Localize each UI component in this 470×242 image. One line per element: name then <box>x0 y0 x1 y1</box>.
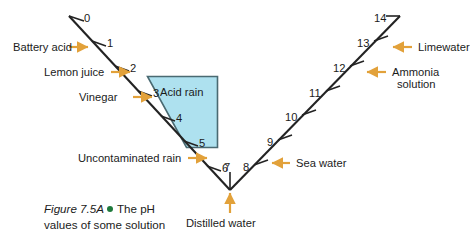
caption-line-2: values of some solution <box>44 218 165 231</box>
label-uncontaminated-rain: Uncontaminated rain <box>78 152 181 165</box>
figure-caption: Figure 7.5AThe pH values of some solutio… <box>44 201 249 234</box>
tick-10 <box>302 110 316 115</box>
label-vinegar: Vinegar <box>79 91 117 104</box>
tick-label-4: 4 <box>176 112 182 125</box>
label-ammonia: Ammonia <box>392 66 439 79</box>
caption-line-1: The pH <box>117 202 155 215</box>
tick-label-14: 14 <box>374 12 386 25</box>
tick-label-3: 3 <box>153 87 159 100</box>
tick-label-7: 7 <box>224 161 230 174</box>
tick-label-11: 11 <box>309 87 321 100</box>
label-acid-rain: Acid rain <box>160 86 204 99</box>
tick-label-10: 10 <box>285 111 297 124</box>
tick-label-8: 8 <box>243 161 249 174</box>
label-limewater: Limewater <box>418 41 470 54</box>
tick-label-0: 0 <box>84 12 90 25</box>
tick-label-9: 9 <box>267 136 273 149</box>
tick-12 <box>350 61 364 66</box>
tick-label-1: 1 <box>107 37 113 50</box>
label-lemon-juice: Lemon juice <box>44 66 104 79</box>
tick-label-13: 13 <box>357 37 369 50</box>
label-ammonia-solution-line2: solution <box>397 78 436 91</box>
figure-number: Figure 7.5A <box>44 202 104 215</box>
tick-label-12: 12 <box>333 62 345 75</box>
tick-label-5: 5 <box>199 137 205 150</box>
label-sea-water: Sea water <box>296 157 346 170</box>
tick-label-2: 2 <box>130 62 136 75</box>
green-dot-icon <box>107 206 113 212</box>
label-battery-acid: Battery acid <box>13 41 72 54</box>
pointer-arrows <box>69 47 412 213</box>
